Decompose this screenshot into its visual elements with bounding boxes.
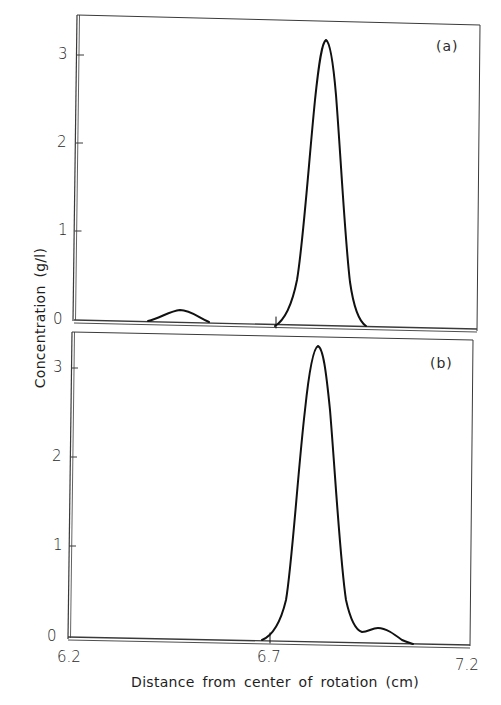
xtick-7-2: 7.2 <box>455 658 479 673</box>
panel-a-ytick-3: 3 <box>58 47 68 62</box>
panel-b-frame <box>68 332 473 648</box>
panel-b-ytick-2: 2 <box>52 449 62 464</box>
panel-a-minor-peak <box>148 310 209 322</box>
panel-a-curves <box>148 40 366 328</box>
panel-a-ytick-0: 0 <box>53 312 63 327</box>
panel-b-ytick-0: 0 <box>47 629 57 644</box>
y-axis-title: Concentration (g/l) <box>32 233 48 403</box>
x-axis-title: Distance from center of rotation (cm) <box>110 674 440 690</box>
panel-a-main-peak <box>275 40 366 326</box>
panel-b-ytick-1: 1 <box>53 538 63 553</box>
chart-canvas <box>0 0 501 705</box>
panel-a-frame <box>73 15 480 332</box>
panel-a-ytick-1: 1 <box>58 223 68 238</box>
panel-b-ytick-3: 3 <box>53 360 63 375</box>
panel-b-curves <box>262 346 413 644</box>
xtick-6-7: 6.7 <box>257 650 281 665</box>
xtick-6-2: 6.2 <box>57 650 81 665</box>
figure: (a) (b) 3 2 1 0 3 2 1 0 6.2 6.7 7.2 Dist… <box>0 0 501 705</box>
panel-b-main-peak <box>262 346 413 644</box>
panel-a-label: (a) <box>436 38 459 54</box>
panel-b-label: (b) <box>430 355 453 371</box>
panel-a-ytick-2: 2 <box>57 135 67 150</box>
